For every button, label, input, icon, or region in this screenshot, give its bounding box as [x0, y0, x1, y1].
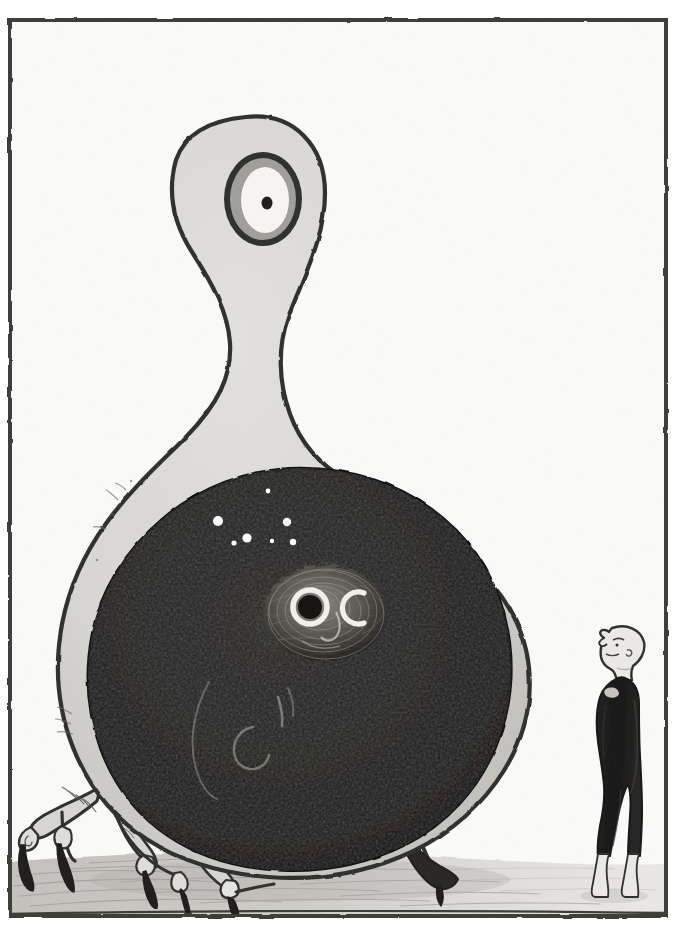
paper-grain-overlay	[8, 18, 668, 918]
illustration-svg	[0, 0, 683, 939]
illustration-canvas	[0, 0, 683, 939]
